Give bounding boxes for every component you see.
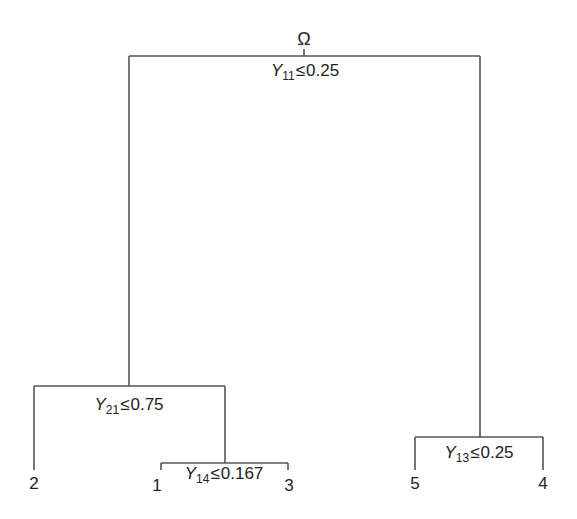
split-variable: Y xyxy=(444,443,455,462)
leaf-1: 1 xyxy=(152,477,161,494)
left-right-node-split-condition: Y14≤0.167 xyxy=(185,465,264,485)
tree-diagram: Ω Y11≤0.25 Y21≤0.75 Y14≤0.167 Y13≤0.25 2… xyxy=(0,0,577,519)
split-index: 13 xyxy=(456,451,469,465)
split-variable: Y xyxy=(94,395,105,414)
leaf-5: 5 xyxy=(410,475,419,492)
left-node-split-condition: Y21≤0.75 xyxy=(94,396,163,416)
split-operator: ≤ xyxy=(296,61,305,80)
split-index: 11 xyxy=(282,69,294,83)
split-index: 21 xyxy=(106,403,119,417)
split-variable: Y xyxy=(271,61,282,80)
right-node-split-condition: Y13≤0.25 xyxy=(444,444,513,464)
split-index: 14 xyxy=(196,472,209,486)
split-variable: Y xyxy=(185,464,196,483)
root-label: Ω xyxy=(297,30,310,48)
split-operator: ≤ xyxy=(210,464,219,483)
split-threshold: 0.25 xyxy=(306,61,339,80)
leaf-2: 2 xyxy=(29,475,38,492)
split-threshold: 0.75 xyxy=(130,395,163,414)
split-threshold: 0.167 xyxy=(221,464,264,483)
leaf-4: 4 xyxy=(538,475,547,492)
split-operator: ≤ xyxy=(470,443,479,462)
split-threshold: 0.25 xyxy=(480,443,513,462)
root-split-condition: Y11≤0.25 xyxy=(271,62,339,82)
leaf-3: 3 xyxy=(284,477,293,494)
split-operator: ≤ xyxy=(120,395,129,414)
